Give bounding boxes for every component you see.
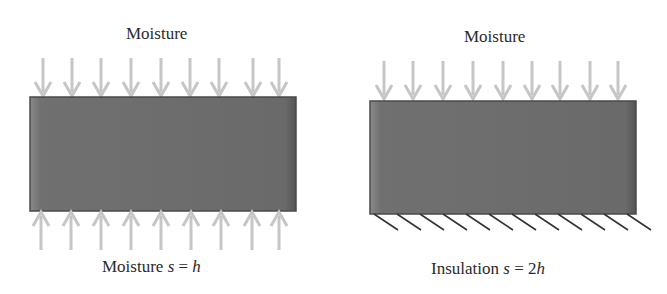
right-bottom-label-text: Insulation bbox=[431, 259, 503, 278]
right-slab bbox=[370, 101, 636, 214]
right-bottom-label: Insulation s = 2h bbox=[431, 259, 545, 279]
left-bottom-arrows bbox=[33, 212, 287, 250]
right-bottom-label-val: h bbox=[536, 259, 545, 278]
insulation-hatch bbox=[374, 214, 651, 230]
left-bottom-label-eq: = bbox=[174, 257, 192, 276]
diagram-canvas bbox=[0, 0, 667, 294]
right-top-arrows bbox=[376, 61, 626, 99]
left-slab bbox=[30, 97, 296, 211]
right-top-label: Moisture bbox=[464, 27, 525, 47]
left-bottom-label-val: h bbox=[192, 257, 201, 276]
left-bottom-label: Moisture s = h bbox=[102, 257, 201, 277]
left-top-arrows bbox=[35, 58, 287, 96]
right-bottom-label-var: s bbox=[503, 259, 510, 278]
left-top-label: Moisture bbox=[126, 24, 187, 44]
left-bottom-label-text: Moisture bbox=[102, 257, 168, 276]
right-bottom-label-eq: = 2 bbox=[510, 259, 537, 278]
